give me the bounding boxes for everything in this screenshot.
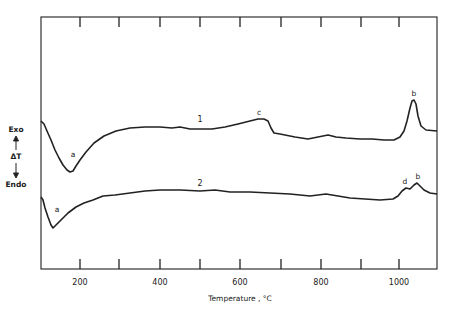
curve-2-label: 2 <box>197 179 202 188</box>
curve-1-label: 1 <box>197 115 202 124</box>
peak-d-curve2: d <box>403 177 408 186</box>
peak-c-curve1: c <box>257 108 261 117</box>
peak-b-curve1: b <box>412 89 417 98</box>
bottom-ticks <box>80 259 399 269</box>
arrow-down-icon <box>14 163 19 178</box>
curve-2 <box>41 183 437 228</box>
tick-label-1000: 1000 <box>389 278 409 287</box>
top-ticks <box>80 17 399 27</box>
tick-label-600: 600 <box>232 278 247 287</box>
x-axis-title: Temperature , °C <box>207 294 272 303</box>
x-tick-labels: 200 400 600 800 1000 <box>72 278 409 287</box>
endo-label: Endo <box>6 180 27 189</box>
arrow-up-icon <box>14 136 19 150</box>
peak-a-curve1: a <box>71 150 76 159</box>
tick-label-800: 800 <box>313 278 328 287</box>
tick-label-400: 400 <box>152 278 167 287</box>
plot-frame <box>41 17 437 269</box>
peak-b-curve2: b <box>416 172 421 181</box>
curve-1 <box>41 100 437 172</box>
peak-a-curve2: a <box>55 205 60 214</box>
dta-chart: 200 400 600 800 1000 Temperature , °C Ex… <box>0 0 451 310</box>
delta-t-label: ΔT <box>11 152 23 161</box>
tick-label-200: 200 <box>72 278 87 287</box>
exo-label: Exo <box>8 125 23 134</box>
